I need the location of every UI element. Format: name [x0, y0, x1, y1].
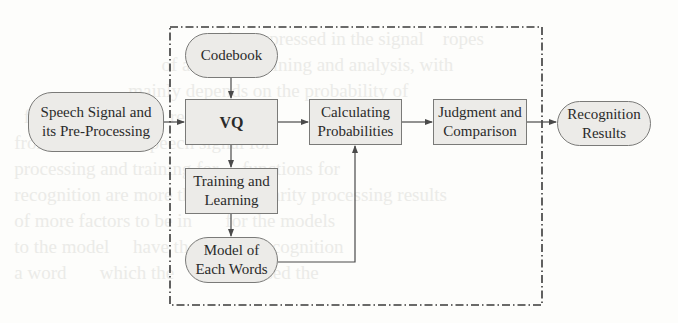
- diagram-connectors: [0, 0, 678, 323]
- node-speech-signal: Speech Signal andits Pre-Processing: [28, 92, 164, 152]
- node-recognition-results: RecognitionResults: [557, 101, 651, 146]
- node-label: Model of: [204, 242, 259, 258]
- node-label: Calculating: [321, 104, 390, 120]
- node-model-each-words: Model ofEach Words: [185, 237, 278, 283]
- node-label: Training and: [193, 173, 270, 189]
- node-label: Recognition: [567, 106, 640, 122]
- node-codebook: Codebook: [185, 33, 278, 78]
- node-label: VQ: [220, 113, 244, 132]
- node-label: Probabilities: [318, 123, 394, 139]
- node-label: its Pre-Processing: [42, 123, 150, 139]
- node-calculating-probabilities: CalculatingProbabilities: [309, 99, 402, 145]
- node-label: Results: [582, 125, 626, 141]
- node-label: Codebook: [201, 46, 263, 65]
- node-training-learning: Training andLearning: [185, 168, 278, 214]
- node-label: Comparison: [443, 123, 516, 139]
- node-vq: VQ: [185, 99, 278, 145]
- node-label: Speech Signal and: [41, 104, 152, 120]
- node-judgment-comparison: Judgment andComparison: [433, 99, 527, 145]
- node-label: Judgment and: [438, 104, 522, 120]
- node-label: Learning: [204, 192, 258, 208]
- edge-model-to-calc: [278, 146, 355, 262]
- node-label: Each Words: [195, 261, 267, 277]
